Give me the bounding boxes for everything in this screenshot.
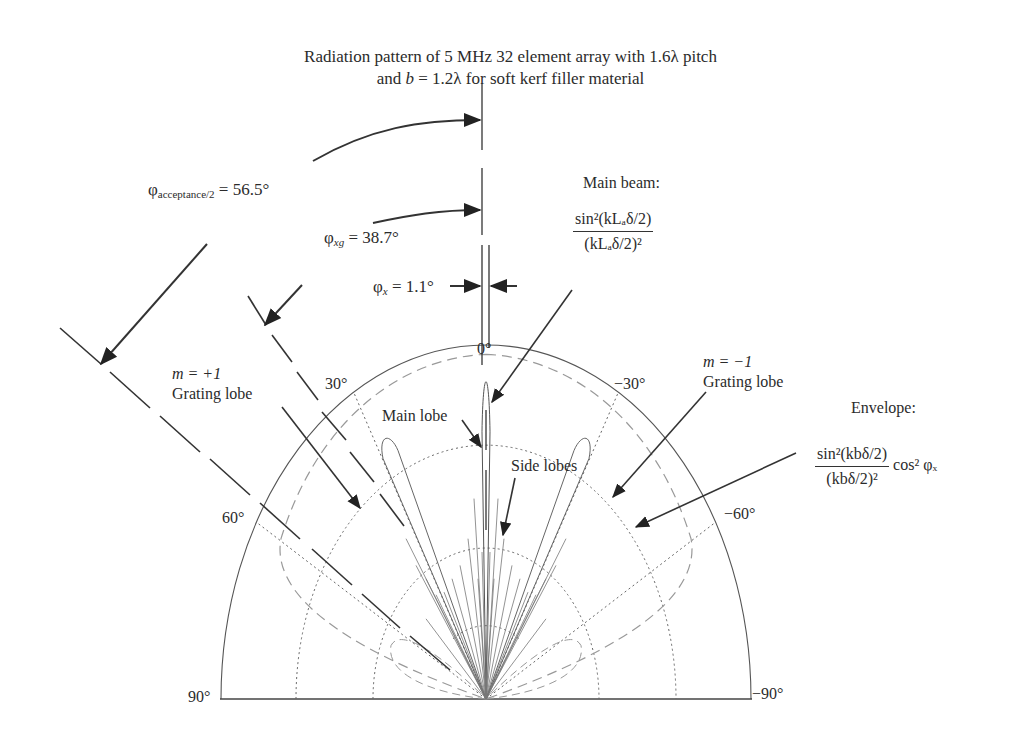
main-beam-numerator: sin²(kLₐδ/2) — [573, 210, 653, 232]
arrow-xg-top — [373, 210, 480, 223]
acceptance-angle-line — [60, 328, 450, 670]
angle-label-60: 60° — [222, 509, 244, 527]
angle-label-90: 90° — [188, 688, 210, 706]
grating-lobe-minus-label: m = −1 Grating lobe — [703, 352, 783, 392]
side-lobes-label: Side lobes — [511, 457, 577, 475]
arrow-main-lobe — [462, 420, 481, 447]
phi-x-label: φx = 1.1° — [373, 277, 434, 297]
main-beam-label: Main beam: — [583, 174, 660, 192]
angle-label-neg90: −90° — [752, 685, 783, 703]
envelope-suffix: cos² φₓ — [893, 456, 937, 473]
arrow-envelope — [636, 453, 796, 527]
main-beam-formula: sin²(kLₐδ/2) (kLₐδ/2)² — [573, 210, 653, 253]
arrow-xg-left — [265, 285, 302, 325]
arrow-acceptance-left — [101, 244, 207, 364]
arrow-side-lobes — [503, 478, 515, 535]
envelope-formula: sin²(kbδ/2) (kbδ/2)² cos² φₓ — [815, 445, 937, 488]
envelope-label: Envelope: — [851, 399, 916, 417]
envelope-denominator: (kbδ/2)² — [815, 467, 889, 488]
envelope-numerator: sin²(kbδ/2) — [815, 445, 889, 467]
phi-xg-label: φxg = 38.7° — [324, 228, 399, 248]
arrow-grating-minus — [613, 392, 706, 497]
angle-label-neg60: −60° — [724, 505, 755, 523]
main-beam-denominator: (kLₐδ/2)² — [573, 232, 653, 253]
main-lobe-label: Main lobe — [382, 407, 447, 425]
phi-acceptance-label: φacceptance/2 = 56.5° — [148, 180, 269, 200]
arrow-acceptance-top — [313, 120, 480, 161]
angle-label-30: 30° — [325, 375, 347, 393]
polar-radiation-plot — [0, 0, 1021, 739]
angle-label-neg30: −30° — [614, 375, 645, 393]
grating-lobe-plus-label: m = +1 Grating lobe — [172, 364, 252, 404]
angle-label-0: 0° — [477, 340, 491, 358]
zero-reference-line — [482, 83, 489, 530]
